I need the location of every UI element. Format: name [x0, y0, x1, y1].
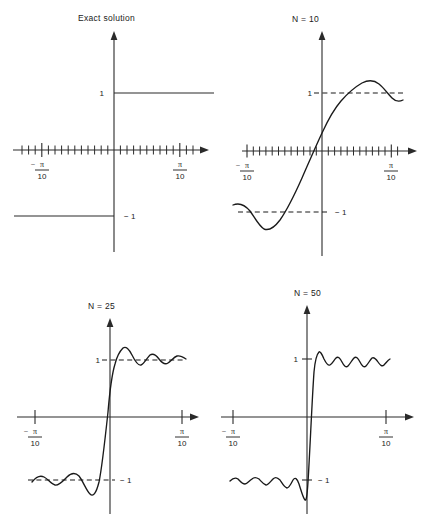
- y-axis-arrowhead: [111, 31, 118, 40]
- x-label-right: π 10: [175, 427, 189, 448]
- svg-text:10: 10: [178, 439, 187, 448]
- plot-n10: 1 − 1 − π 10 π 10: [214, 0, 428, 260]
- svg-text:π: π: [231, 427, 235, 436]
- x-label-left: − π 10: [236, 161, 254, 182]
- svg-text:10: 10: [243, 173, 252, 182]
- svg-text:10: 10: [176, 172, 185, 181]
- panel-n50: N = 50 1 − 1 − π 10 π 10: [214, 260, 428, 519]
- svg-text:π: π: [40, 160, 44, 169]
- x-axis-arrowhead: [190, 414, 199, 421]
- svg-text:π: π: [180, 427, 184, 436]
- svg-text:−: −: [222, 427, 227, 436]
- panel-n10: N = 10: [214, 0, 428, 260]
- y-axis-arrowhead: [304, 305, 311, 314]
- y-label-positive-one: 1: [100, 89, 105, 98]
- x-axis-arrowhead: [200, 147, 209, 154]
- svg-text:10: 10: [382, 439, 391, 448]
- x-label-right: π 10: [173, 160, 187, 181]
- y-axis-arrowhead: [319, 31, 326, 40]
- y-label-positive-one: 1: [96, 356, 101, 365]
- svg-text:−: −: [236, 161, 241, 170]
- x-label-right: π 10: [379, 427, 393, 448]
- panel-n25: N = 25 1 − 1 − π 10 π 10: [0, 260, 214, 519]
- x-label-left: − π 10: [222, 427, 240, 448]
- x-axis-arrowhead: [408, 148, 417, 155]
- y-label-positive-one: 1: [294, 355, 299, 364]
- y-label-negative-one: − 1: [335, 208, 347, 217]
- svg-text:10: 10: [387, 173, 396, 182]
- x-label-right: π 10: [384, 161, 398, 182]
- panel-title-n50: N = 50: [294, 288, 321, 298]
- x-label-left: − π 10: [24, 427, 42, 448]
- panel-title-n10: N = 10: [292, 14, 319, 24]
- plot-exact: 1 − 1 − π 10 π 10: [0, 0, 214, 260]
- y-label-negative-one: − 1: [318, 476, 330, 485]
- figure-container: Exact solution: [0, 0, 428, 519]
- x-label-left: − π 10: [31, 160, 49, 181]
- y-label-positive-one: 1: [308, 89, 313, 98]
- svg-text:π: π: [245, 161, 249, 170]
- svg-text:−: −: [31, 160, 36, 169]
- svg-text:π: π: [178, 160, 182, 169]
- svg-text:10: 10: [229, 439, 238, 448]
- plot-n50: 1 − 1 − π 10 π 10: [214, 260, 428, 519]
- fourier-curve-n50: [230, 352, 390, 500]
- svg-text:−: −: [24, 427, 29, 436]
- svg-text:10: 10: [38, 172, 47, 181]
- x-axis-arrowhead: [405, 414, 414, 421]
- fourier-curve-n10: [233, 81, 403, 230]
- panel-title-exact: Exact solution: [78, 13, 135, 23]
- svg-text:π: π: [389, 161, 393, 170]
- panel-title-n25: N = 25: [88, 301, 115, 311]
- svg-text:π: π: [384, 427, 388, 436]
- plot-n25: 1 − 1 − π 10 π 10: [0, 260, 214, 519]
- fourier-curve-n25: [32, 347, 186, 495]
- y-label-negative-one: − 1: [120, 476, 132, 485]
- svg-text:10: 10: [31, 439, 40, 448]
- y-axis-arrowhead: [107, 318, 114, 327]
- svg-text:π: π: [33, 427, 37, 436]
- panel-exact-solution: Exact solution: [0, 0, 214, 260]
- y-label-negative-one: − 1: [124, 212, 136, 221]
